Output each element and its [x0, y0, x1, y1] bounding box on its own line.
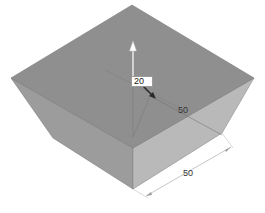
cad-viewport[interactable]: 50 50 20 — [0, 0, 265, 213]
dimension-depth-label[interactable]: 50 — [178, 105, 188, 115]
extrude-height-input[interactable]: 20 — [131, 76, 153, 87]
dimension-width-label[interactable]: 50 — [183, 168, 193, 178]
